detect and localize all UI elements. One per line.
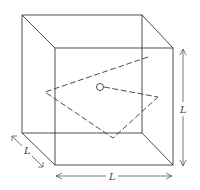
cube-edge-top-right <box>142 15 173 48</box>
dimension-width: L <box>56 170 172 182</box>
cube-diagram: L L L <box>0 0 200 190</box>
dashed-plane-outline <box>45 57 158 138</box>
cube-edge-bottom-right <box>142 133 173 165</box>
cube-edge-top-left <box>22 15 55 48</box>
height-label: L <box>179 104 187 115</box>
dimension-height: L <box>178 49 188 166</box>
inner-plane <box>45 57 158 138</box>
point-circle <box>97 84 104 91</box>
dashed-line-to-circle <box>104 87 158 97</box>
cube-front-face <box>55 48 173 165</box>
depth-label: L <box>23 145 31 156</box>
dimension-depth: L <box>12 136 43 167</box>
width-label: L <box>108 171 116 182</box>
